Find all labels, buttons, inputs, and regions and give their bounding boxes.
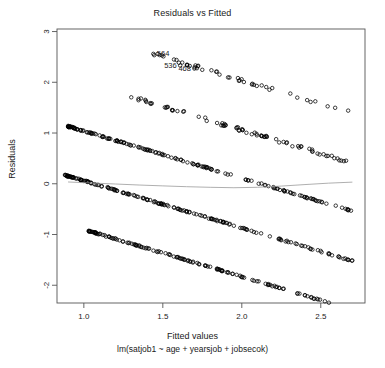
data-point xyxy=(201,68,205,72)
data-point xyxy=(121,240,125,244)
data-point xyxy=(291,145,295,149)
data-point xyxy=(264,85,268,89)
data-point xyxy=(192,212,196,216)
data-point xyxy=(296,96,300,100)
x-tick-label: 1.5 xyxy=(157,312,169,321)
data-point xyxy=(268,235,272,239)
data-point xyxy=(235,273,239,277)
data-point xyxy=(195,213,199,217)
data-point xyxy=(215,121,219,125)
data-point xyxy=(330,254,334,258)
data-point xyxy=(322,153,326,157)
data-point xyxy=(260,84,264,88)
axis-box xyxy=(57,29,365,303)
y-tick-label: 0 xyxy=(42,181,51,186)
data-point xyxy=(325,202,329,206)
x-tick-label: 2.0 xyxy=(236,312,248,321)
data-point xyxy=(314,100,318,104)
data-point xyxy=(197,115,201,119)
data-point xyxy=(326,105,330,109)
x-axis-model-formula: lm(satjob1 ~ age + yearsjob + jobsecok) xyxy=(0,344,385,354)
outlier-labels: 564536468 xyxy=(152,49,197,73)
data-point xyxy=(305,98,309,102)
y-tick-label: 2 xyxy=(42,80,51,85)
data-point xyxy=(218,73,222,77)
data-point xyxy=(334,204,338,208)
data-point xyxy=(208,265,212,269)
data-point xyxy=(323,300,327,304)
data-point xyxy=(139,97,143,101)
data-point xyxy=(259,232,263,236)
data-point xyxy=(170,156,174,160)
data-point xyxy=(333,106,337,110)
data-point xyxy=(245,131,249,135)
data-point xyxy=(274,137,278,141)
data-point xyxy=(232,224,236,228)
y-tick-label: -2 xyxy=(42,281,51,289)
x-tick-label: 2.5 xyxy=(315,312,327,321)
data-point xyxy=(338,256,342,260)
data-point xyxy=(309,100,313,104)
outlier-label: 564 xyxy=(157,49,170,58)
data-point xyxy=(130,96,134,100)
outlier-label: 468 xyxy=(178,64,191,73)
x-axis-label: Fitted values xyxy=(0,331,385,341)
x-tick-label: 1.0 xyxy=(78,312,90,321)
y-tick-label: 1 xyxy=(42,130,51,135)
y-tick-label: -1 xyxy=(42,230,51,238)
scatter-points xyxy=(63,52,354,304)
data-point xyxy=(289,92,293,96)
data-point xyxy=(340,206,344,210)
data-point xyxy=(186,161,190,165)
data-point xyxy=(210,69,214,73)
data-point xyxy=(346,109,350,113)
outlier-label: 536 xyxy=(164,61,177,70)
data-point xyxy=(267,184,271,188)
y-tick-label: 3 xyxy=(42,29,51,34)
data-point xyxy=(166,154,170,158)
data-point xyxy=(205,119,209,123)
data-point xyxy=(277,141,281,145)
data-point xyxy=(268,88,272,92)
residuals-vs-fitted-plot: Residuals vs Fitted Residuals 1.01.52.02… xyxy=(0,0,385,368)
plot-canvas: 1.01.52.02.53210-1-2 564536468 xyxy=(0,0,385,368)
data-point xyxy=(176,109,180,113)
data-point xyxy=(98,134,102,138)
